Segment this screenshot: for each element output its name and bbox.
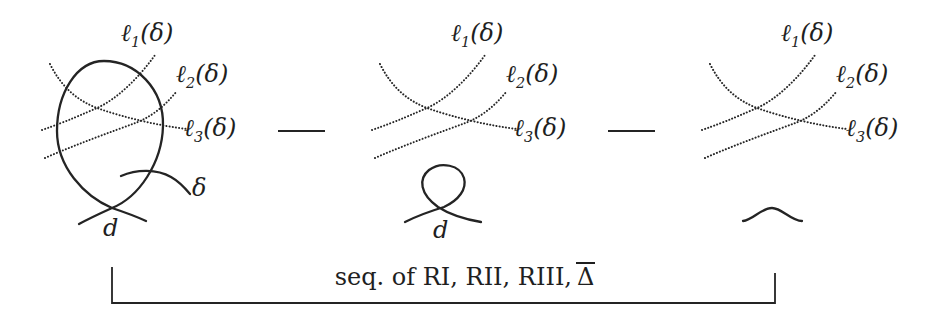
label-sub: 2 (186, 75, 195, 91)
label-sub: 1 (791, 34, 800, 50)
delta-arc-curve (121, 171, 190, 194)
label-l1-panel-2: ℓ1(δ) (451, 20, 503, 48)
arrow-right-icon-1 (278, 126, 336, 136)
label-suffix: (δ) (800, 19, 833, 47)
label-l2-panel-2: ℓ2(δ) (506, 61, 558, 89)
label-d-panel-2: d (433, 217, 448, 245)
label-l2-panel-3: ℓ2(δ) (836, 61, 888, 89)
figure-canvas: ℓ1(δ) ℓ2(δ) ℓ3(δ) δ d ℓ1(δ) ℓ2(δ) ℓ3(δ) … (0, 0, 940, 322)
label-base: ℓ (176, 60, 186, 88)
label-sub: 2 (516, 75, 525, 91)
label-base: ℓ (514, 114, 524, 142)
dotted-lines-panel-2 (372, 55, 517, 158)
kink-loop-curve (405, 165, 481, 222)
dotted-line-l3 (710, 64, 847, 129)
label-suffix: (δ) (195, 60, 228, 88)
label-suffix: (δ) (533, 114, 566, 142)
label-suffix: (δ) (865, 114, 898, 142)
label-base: ℓ (121, 19, 131, 47)
label-l1-panel-1: ℓ1(δ) (121, 20, 173, 48)
label-suffix: (δ) (525, 60, 558, 88)
label-l3-panel-2: ℓ3(δ) (514, 115, 566, 143)
dotted-line-l1 (702, 55, 815, 130)
label-base: ℓ (184, 114, 194, 142)
teardrop-loop-curve (57, 61, 163, 224)
dotted-lines-panel-1 (42, 55, 187, 158)
label-l2-panel-1: ℓ2(δ) (176, 61, 228, 89)
overline-delta-symbol: Δ (576, 262, 595, 289)
dotted-line-l1 (372, 55, 485, 130)
delta-symbol: δ (192, 174, 206, 202)
label-l3-panel-3: ℓ3(δ) (846, 115, 898, 143)
sequence-caption: seq. of RI, RII, RIII,Δ (240, 262, 690, 292)
dotted-line-l3 (50, 64, 187, 129)
dotted-line-l3 (380, 64, 517, 129)
label-suffix: (δ) (203, 114, 236, 142)
label-base: ℓ (506, 60, 516, 88)
label-base: ℓ (451, 19, 461, 47)
label-suffix: (δ) (140, 19, 173, 47)
d-symbol: d (433, 216, 448, 244)
label-sub: 3 (194, 129, 203, 145)
label-sub: 2 (846, 75, 855, 91)
dotted-line-l1 (42, 55, 155, 130)
label-base: ℓ (836, 60, 846, 88)
label-l3-panel-1: ℓ3(δ) (184, 115, 236, 143)
label-sub: 1 (461, 34, 470, 50)
dotted-lines-panel-3 (702, 55, 847, 158)
label-base: ℓ (846, 114, 856, 142)
label-sub: 3 (524, 129, 533, 145)
arrow-right-icon-2 (608, 126, 666, 136)
label-delta-panel-1: δ (192, 175, 206, 203)
label-d-panel-1: d (103, 215, 118, 243)
label-suffix: (δ) (855, 60, 888, 88)
label-sub: 3 (856, 129, 865, 145)
label-base: ℓ (781, 19, 791, 47)
label-l1-panel-3: ℓ1(δ) (781, 20, 833, 48)
label-suffix: (δ) (470, 19, 503, 47)
bump-curve (743, 208, 802, 221)
label-sub: 1 (131, 34, 140, 50)
d-symbol: d (103, 214, 118, 242)
sequence-caption-text: seq. of RI, RII, RIII, (335, 263, 572, 291)
